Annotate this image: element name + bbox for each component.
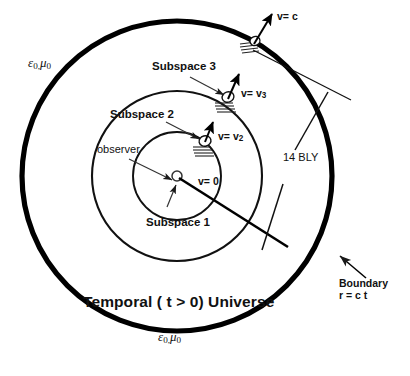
- distance-14bly-label: 14 BLY: [283, 152, 318, 164]
- mu-subscript-top: 0: [46, 61, 51, 71]
- boundary-label: Boundary r = c t: [339, 278, 388, 301]
- craft-subspace2: [193, 122, 214, 156]
- velocity-v2-label: v= v2: [218, 131, 243, 144]
- diagram-svg: [0, 0, 410, 376]
- leader-subspace1: [167, 185, 176, 207]
- velocity-v2-text: v= v: [218, 130, 239, 142]
- velocity-v3-text: v= v: [241, 87, 262, 99]
- dimension-tick-middle: [262, 184, 283, 250]
- permittivity-permeability-label-top: ε0,μ0: [28, 56, 51, 72]
- velocity-v3-subscript: 3: [262, 91, 267, 100]
- epsilon-subscript-bottom: 0,: [163, 335, 170, 345]
- velocity-c-label: v= c: [277, 11, 298, 22]
- subspace-3-label: Subspace 3: [152, 60, 216, 72]
- leader-observer: [129, 159, 172, 180]
- velocity-zero-label: v= 0: [198, 176, 219, 187]
- epsilon-subscript-top: 0,: [33, 61, 40, 71]
- velocity-v2-subscript: 2: [239, 134, 244, 143]
- diagram-canvas: ε0,μ0 ε0,μ0 Temporal ( t > 0) Universe S…: [0, 0, 410, 376]
- universe-label: Temporal ( t > 0) Universe: [83, 294, 274, 310]
- boundary-label-line1: Boundary: [339, 277, 388, 289]
- observer-label: observer: [97, 144, 140, 156]
- leader-boundary-craft: [253, 50, 351, 100]
- mu-subscript-bottom: 0: [176, 335, 181, 345]
- subspace-1-label: Subspace 1: [146, 216, 210, 228]
- craft-subspace3: [215, 74, 239, 112]
- radius-line: [179, 178, 288, 247]
- permittivity-permeability-label-bottom: ε0,μ0: [158, 330, 181, 346]
- leader-boundary-label: [340, 256, 366, 278]
- subspace-2-label: Subspace 2: [110, 108, 174, 120]
- boundary-label-line2: r = c t: [339, 290, 388, 301]
- velocity-arrow-c: [254, 14, 272, 44]
- leader-subspace2: [166, 122, 199, 139]
- velocity-v3-label: v= v3: [241, 88, 266, 101]
